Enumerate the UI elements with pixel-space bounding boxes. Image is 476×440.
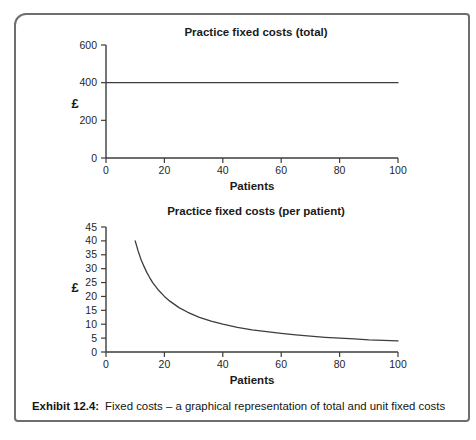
caption-text: Fixed costs – a graphical representation… <box>105 400 445 412</box>
x-axis-label-total: Patients <box>106 180 398 192</box>
x-axis-label-per-patient: Patients <box>106 374 398 386</box>
chart-title-total: Practice fixed costs (total) <box>106 26 406 38</box>
exhibit-caption: Exhibit 12.4:Fixed costs – a graphical r… <box>32 400 460 412</box>
exhibit-frame <box>14 13 470 422</box>
exhibit-page: 0200400600020406080100051015202530354045… <box>0 0 476 440</box>
chart-title-per-patient: Practice fixed costs (per patient) <box>106 205 406 217</box>
exhibit-number: Exhibit 12.4: <box>32 400 99 412</box>
y-axis-label-per-patient: £ <box>65 280 85 295</box>
y-axis-label-total: £ <box>65 96 85 111</box>
